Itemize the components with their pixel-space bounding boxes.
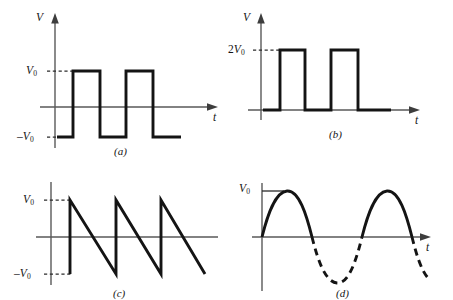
panel-a-y-axis-label: V <box>36 12 43 24</box>
waveform-figure: V t V0 –V0 (a) V t 2V0 (b) <box>0 0 453 300</box>
panel-d-wave-negative-1 <box>312 237 362 283</box>
panel-b-y-axis-label: V <box>243 12 250 24</box>
panel-d: V0 t (d) <box>226 155 453 300</box>
panel-b-waveform <box>263 50 391 110</box>
panel-c: V0 –V0 (c) <box>0 155 226 300</box>
panel-a-waveform <box>57 71 181 137</box>
panel-b-caption: (b) <box>329 129 342 140</box>
panel-b: V t 2V0 (b) <box>226 0 453 155</box>
panel-a: V t V0 –V0 (a) <box>0 0 226 155</box>
panel-c-tick-label-neg-v0: –V0 <box>14 268 31 280</box>
panel-c-caption: (c) <box>113 288 125 299</box>
panel-a-tick-label-neg-v0: –V0 <box>17 131 34 143</box>
panel-a-tick-label-v0: V0 <box>26 65 37 77</box>
panel-c-tick-label-v0: V0 <box>23 194 34 206</box>
panel-d-wave-positive-1 <box>262 191 312 237</box>
panel-a-level-guides <box>47 71 73 137</box>
panel-b-tick-label-2v0: 2V0 <box>228 44 245 56</box>
panel-a-x-axis-label: t <box>213 112 216 124</box>
panel-a-x-axis <box>40 103 218 111</box>
panel-d-caption: (d) <box>336 288 349 299</box>
panel-b-y-axis <box>257 13 265 120</box>
panel-d-wave-positive-2 <box>362 191 412 237</box>
panel-d-x-axis-label: t <box>426 242 429 254</box>
panel-d-x-axis <box>252 233 431 241</box>
panel-a-y-axis <box>51 13 59 148</box>
panel-d-tick-label-v0: V0 <box>239 183 250 195</box>
panel-b-x-axis-label: t <box>415 115 418 127</box>
